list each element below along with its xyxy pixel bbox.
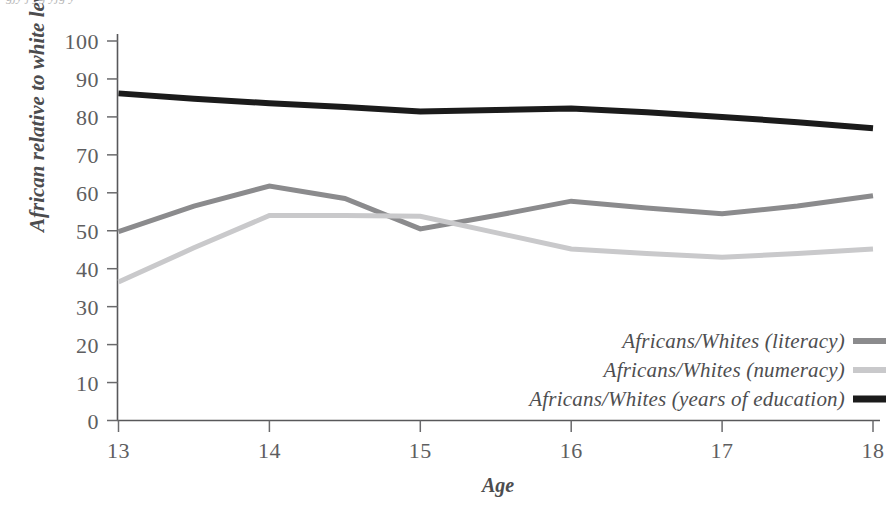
y-tick-label: 90 xyxy=(76,67,99,92)
chart-legend: Africans/Whites (literacy)Africans/White… xyxy=(527,329,886,411)
x-tick-label: 13 xyxy=(107,438,130,463)
series-line-1 xyxy=(119,216,874,282)
x-tick-label: 15 xyxy=(409,438,432,463)
y-tick-label: 0 xyxy=(88,409,100,434)
x-tick-label: 14 xyxy=(258,438,281,463)
y-tick-label: 40 xyxy=(76,257,99,282)
y-tick-label: 20 xyxy=(76,333,99,358)
x-axis-title: Age xyxy=(480,474,514,497)
legend-label-2: Africans/Whites (years of education) xyxy=(527,387,845,411)
y-axis-title: African relative to white levels (%) xyxy=(25,0,49,234)
y-tick-label: 60 xyxy=(76,181,99,206)
line-chart-svg: African relative to white levels (%) 100… xyxy=(0,0,888,509)
y-tick-label: 10 xyxy=(76,371,99,396)
legend-label-1: Africans/Whites (numeracy) xyxy=(602,358,845,382)
series-line-2 xyxy=(119,93,874,128)
x-tick-label: 17 xyxy=(711,438,734,463)
y-tick-label: 50 xyxy=(76,219,99,244)
y-tick-label: 30 xyxy=(76,295,99,320)
series-line-0 xyxy=(119,186,874,232)
x-tick-label: 16 xyxy=(560,438,583,463)
x-axis-ticks: 131415161718 xyxy=(107,421,885,464)
legend-label-0: Africans/Whites (literacy) xyxy=(620,329,845,353)
chart-figure: gjy j yg yjg y African relative to white… xyxy=(0,0,888,509)
series-group xyxy=(119,93,874,282)
y-tick-label: 70 xyxy=(76,143,99,168)
x-tick-label: 18 xyxy=(862,438,885,463)
y-tick-label: 100 xyxy=(65,29,100,54)
y-tick-label: 80 xyxy=(76,105,99,130)
y-axis-ticks: 1009080706050403020100 xyxy=(65,29,119,434)
